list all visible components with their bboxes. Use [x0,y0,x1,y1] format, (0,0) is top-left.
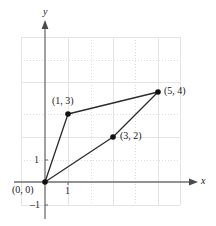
data-point-1-3 [65,111,71,117]
y-tick-label-1: 1 [34,155,39,165]
data-point-5-4 [155,89,161,95]
x-axis-label: x [201,176,205,186]
point-label-1-3: (1, 3) [52,96,74,106]
x-axis-arrowhead [189,179,198,186]
data-point-3-2 [110,134,116,140]
y-axis-arrowhead [42,20,49,29]
point-label-origin: (0, 0) [12,185,34,195]
x-tick-label-1: 1 [65,186,70,196]
y-tick-label-neg1: –1 [30,200,40,210]
data-point-origin [42,179,48,185]
y-axis-label: y [43,7,47,17]
point-label-3-2: (3, 2) [120,131,142,141]
coordinate-plot-figure: y x 1 –1 1 (0, 0) (1, 3) (5, 4) (3, 2) [0,0,216,226]
axis-lines [14,25,193,219]
point-label-5-4: (5, 4) [164,86,186,96]
